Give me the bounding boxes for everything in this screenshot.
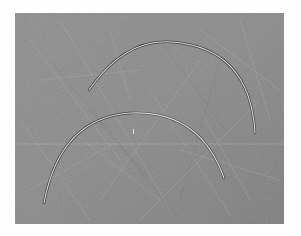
photo-frame: Two curved arc-shaped metal wires lying … [0,0,301,236]
photograph [15,13,284,224]
white-speck [133,129,134,134]
